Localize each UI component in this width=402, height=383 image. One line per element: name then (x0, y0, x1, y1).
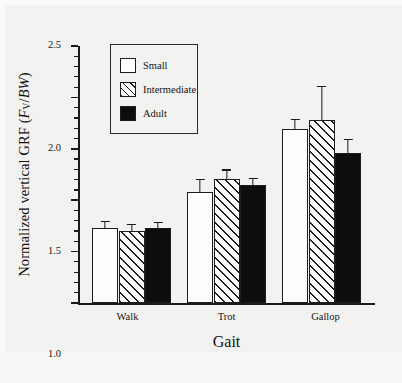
error-bar-cap (153, 222, 162, 223)
bar-group: Gallop (276, 46, 375, 303)
error-bar-cap (317, 86, 326, 87)
error-bar (104, 221, 105, 228)
error-bar-cap (127, 224, 136, 225)
bar-small-gallop (282, 129, 308, 303)
x-tick-label-trot: Trot (218, 311, 236, 322)
x-tick-label-walk: Walk (117, 311, 139, 322)
y-axis-title-suffix: ) (16, 72, 33, 77)
bar-adult-gallop (335, 153, 361, 303)
bar-small-walk (92, 228, 118, 303)
error-bar (294, 119, 295, 129)
chart-legend: SmallIntermediateAdult (110, 44, 198, 134)
legend-swatch-intermediate (120, 82, 136, 97)
error-bar (226, 169, 227, 178)
legend-label-adult: Adult (143, 108, 167, 119)
legend-swatch-adult (120, 106, 136, 121)
figure-caption (24, 372, 380, 381)
error-bar-cap (248, 178, 257, 179)
y-tick-major: 2.5 (71, 45, 78, 47)
y-tick-major: 0.5 (71, 251, 78, 253)
bar-adult-trot (240, 185, 266, 303)
y-axis-title-italic-bw: BW (16, 77, 33, 98)
bar-intermediate-walk (119, 231, 145, 303)
y-tick-major: 0 (71, 302, 78, 304)
legend-item-adult: Adult (120, 101, 197, 125)
bar-slot (309, 46, 335, 303)
legend-swatch-small (120, 58, 136, 73)
bar-slot (335, 46, 361, 303)
y-axis-title: Normalized vertical GRF (FV/BW) (13, 46, 35, 303)
bar-adult-walk (145, 228, 171, 303)
error-bar-cap (343, 139, 352, 140)
y-tick-label: 2.0 (48, 143, 61, 154)
error-bar (321, 86, 322, 120)
y-tick-label: 2.5 (48, 40, 61, 51)
bar-intermediate-trot (214, 179, 240, 303)
page-left-margin (0, 0, 6, 383)
legend-item-intermediate: Intermediate (120, 77, 197, 101)
y-axis-title-subscript: V (22, 102, 32, 109)
y-tick-major: 2.0 (71, 97, 78, 99)
y-tick-major: 1.5 (71, 148, 78, 150)
error-bar (157, 222, 158, 228)
error-bar-cap (195, 179, 204, 180)
error-bar (252, 178, 253, 185)
x-axis-line (78, 303, 375, 305)
y-axis-title-prefix: Normalized vertical GRF ( (16, 118, 33, 276)
page-top-margin (0, 0, 402, 5)
figure-panel: Normalized vertical GRF (FV/BW) 00.51.01… (0, 0, 402, 383)
y-tick-major: 1.0 (71, 199, 78, 201)
y-axis-title-italic-f: F (16, 109, 33, 118)
legend-label-small: Small (143, 60, 168, 71)
y-tick-label: 1.5 (48, 246, 61, 257)
error-bar (131, 224, 132, 231)
error-bar-cap (100, 221, 109, 222)
bar-slot (214, 46, 240, 303)
error-bar (199, 179, 200, 192)
legend-item-small: Small (120, 53, 197, 77)
x-tick-label-gallop: Gallop (311, 311, 340, 322)
bar-intermediate-gallop (309, 120, 335, 303)
legend-label-intermediate: Intermediate (143, 84, 196, 95)
error-bar (347, 139, 348, 153)
bar-small-trot (187, 192, 213, 303)
error-bar-cap (290, 119, 299, 120)
bar-slot (240, 46, 266, 303)
x-axis-title: Gait (78, 333, 375, 351)
y-tick-label: 1.0 (48, 348, 61, 359)
error-bar-cap (222, 169, 231, 170)
bar-slot (282, 46, 308, 303)
